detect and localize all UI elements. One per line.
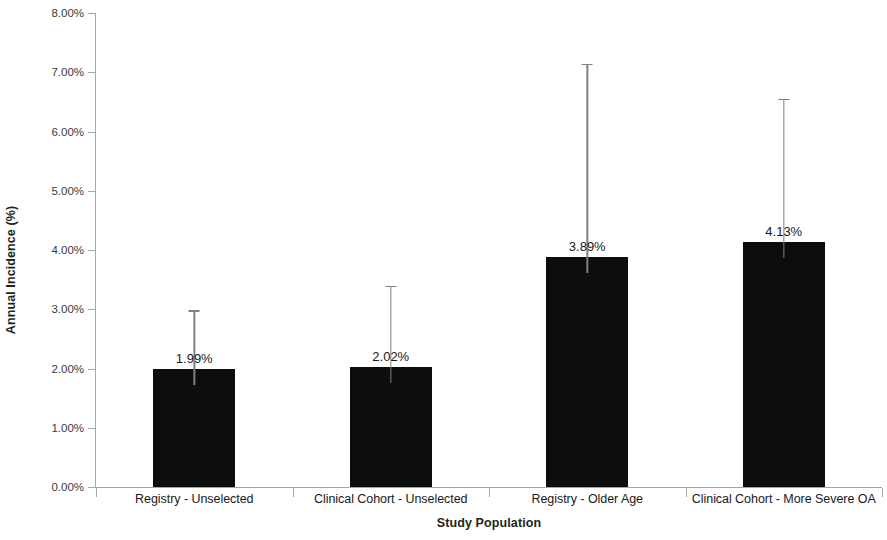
bar — [153, 369, 235, 487]
y-axis-title: Annual Incidence (%) — [0, 0, 22, 540]
y-axis-tick-mark — [88, 369, 95, 370]
error-bar-cap — [189, 310, 200, 311]
bar-value-label: 1.99% — [176, 351, 213, 366]
error-bar-cap — [385, 286, 396, 287]
bar-value-label: 4.13% — [765, 224, 802, 239]
y-axis-tick-mark — [88, 309, 95, 310]
bar-series: 1.99%2.02%3.89%4.13% — [96, 13, 882, 487]
y-axis-tick-label: 5.00% — [6, 185, 84, 197]
x-axis-tick-mark — [882, 488, 883, 497]
bar — [546, 257, 628, 487]
x-axis-category-label: Clinical Cohort - Unselected — [314, 492, 468, 506]
x-axis-tick-mark — [686, 488, 687, 497]
y-axis-tick-mark — [88, 487, 95, 488]
y-axis-tick-mark — [88, 250, 95, 251]
y-axis-tick-label: 3.00% — [6, 303, 84, 315]
error-bar-cap — [582, 64, 593, 65]
y-axis-tick-mark — [88, 428, 95, 429]
y-axis-tick-mark — [88, 191, 95, 192]
bar-chart: Annual Incidence (%) Study Population 0.… — [0, 0, 887, 540]
y-axis-tick-label: 1.00% — [6, 422, 84, 434]
y-axis-tick-mark — [88, 132, 95, 133]
y-axis-tick-mark — [88, 13, 95, 14]
y-axis-tick-label: 7.00% — [6, 66, 84, 78]
y-axis-tick-label: 4.00% — [6, 244, 84, 256]
bar-value-label: 2.02% — [372, 349, 409, 364]
bar — [743, 242, 825, 487]
plot-area: 1.99%2.02%3.89%4.13% — [96, 13, 882, 487]
bar — [350, 367, 432, 487]
x-axis-tick-mark — [489, 488, 490, 497]
error-bar-stem — [390, 286, 391, 383]
y-axis-tick-label: 6.00% — [6, 126, 84, 138]
y-axis-tick-label: 2.00% — [6, 363, 84, 375]
x-axis-category-label: Registry - Unselected — [135, 492, 253, 506]
x-axis-tick-mark — [96, 488, 97, 497]
x-axis-category-label: Registry - Older Age — [531, 492, 643, 506]
bar-value-label: 3.89% — [569, 239, 606, 254]
y-axis-tick-label: 8.00% — [6, 7, 84, 19]
x-axis-title: Study Population — [96, 516, 882, 530]
error-bar-stem — [194, 310, 195, 385]
y-axis-tick-mark — [88, 72, 95, 73]
x-axis-category-label: Clinical Cohort - More Severe OA — [692, 492, 876, 506]
error-bar-cap — [778, 99, 789, 100]
y-axis-tick-label: 0.00% — [6, 481, 84, 493]
x-axis-tick-mark — [293, 488, 294, 497]
